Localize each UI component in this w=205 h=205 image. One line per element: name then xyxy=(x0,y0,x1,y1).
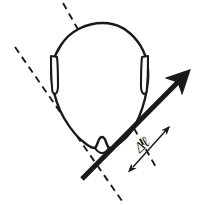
right-ear xyxy=(141,56,148,94)
left-ear xyxy=(51,56,58,94)
head-displacement-diagram: Δℓ xyxy=(0,0,205,205)
delta-l-label: Δℓ xyxy=(130,134,153,157)
figure-canvas: Δℓ xyxy=(0,0,205,205)
